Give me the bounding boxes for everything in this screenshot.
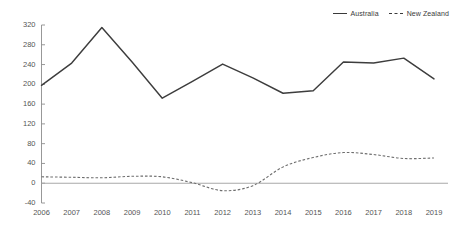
x-tick-label: 2009 [124,208,141,217]
x-tick-label: 2016 [335,208,352,217]
x-tick-label: 2017 [365,208,382,217]
y-tick-label: 280 [23,40,36,49]
series-line-new-zealand [42,152,435,190]
series-line-australia [42,27,435,98]
y-tick-label: 160 [23,99,36,108]
y-tick-label: 0 [31,178,35,187]
plot-area: -4004080120160200240280320 2006200720082… [0,0,457,234]
y-axis-tick-labels: -4004080120160200240280320 [23,20,36,207]
y-tick-label: 200 [23,79,36,88]
x-tick-label: 2013 [245,208,262,217]
y-tick-label: 40 [27,158,35,167]
x-tick-label: 2010 [154,208,171,217]
x-tick-label: 2012 [214,208,231,217]
x-tick-label: 2014 [275,208,292,217]
y-tick-label: 240 [23,60,36,69]
x-tick-label: 2018 [395,208,412,217]
x-tick-label: 2007 [63,208,80,217]
x-axis-tick-labels: 2006200720082009201020112012201320142015… [33,208,442,217]
x-tick-label: 2015 [305,208,322,217]
x-tick-label: 2006 [33,208,50,217]
y-tick-label: 120 [23,119,36,128]
x-tick-label: 2011 [184,208,200,217]
x-tick-label: 2019 [426,208,443,217]
y-tick-label: 80 [27,139,35,148]
y-tick-label: -40 [25,198,36,207]
x-tick-label: 2008 [94,208,111,217]
y-tick-label: 320 [23,20,36,29]
line-chart: Australia New Zealand -40040801201602002… [0,0,457,234]
